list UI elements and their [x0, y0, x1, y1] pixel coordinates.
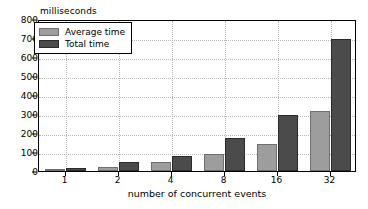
y-axis-tick-mark: [32, 58, 37, 59]
bar-average-time-8: [204, 154, 225, 171]
bar-average-time-4: [151, 162, 172, 171]
y-axis-tick-mark: [32, 134, 37, 135]
legend-swatch-average-time: [39, 28, 59, 36]
x-axis-title: number of concurrent events: [38, 188, 356, 199]
x-axis-tick-label: 1: [62, 175, 68, 185]
legend-label-average-time: Average time: [65, 27, 125, 37]
legend-item-total-time: Total time: [39, 38, 125, 50]
bar-average-time-1: [45, 169, 66, 171]
legend-item-average-time: Average time: [39, 26, 125, 38]
y-axis-tick-mark: [32, 115, 37, 116]
x-axis-tick-mark: [65, 172, 66, 176]
chart-legend: Average time Total time: [34, 22, 132, 54]
bar-average-time-16: [257, 144, 278, 171]
bar-total-time-32: [331, 39, 352, 171]
bar-total-time-8: [225, 138, 246, 171]
legend-label-total-time: Total time: [65, 39, 109, 49]
y-axis-tick-mark: [32, 20, 37, 21]
x-axis-tick-label: 32: [324, 175, 335, 185]
bar-total-time-1: [66, 168, 87, 171]
bar-average-time-2: [98, 167, 119, 171]
bar-total-time-4: [172, 156, 193, 171]
y-axis-unit-label: milliseconds: [40, 6, 97, 16]
x-axis-tick-label: 4: [168, 175, 174, 185]
y-axis-tick-mark: [32, 153, 37, 154]
x-axis-tick-label: 16: [271, 175, 282, 185]
y-axis-tick-mark: [32, 96, 37, 97]
x-axis-tick-mark: [277, 172, 278, 176]
y-axis-tick-mark: [32, 77, 37, 78]
legend-swatch-total-time: [39, 40, 59, 48]
x-axis-tick-mark: [118, 172, 119, 176]
bar-average-time-32: [310, 111, 331, 171]
y-axis-tick-mark: [32, 172, 37, 173]
x-axis-tick-label: 2: [115, 175, 121, 185]
x-axis-tick-mark: [171, 172, 172, 176]
x-axis-tick-label: 8: [221, 175, 227, 185]
x-axis-tick-mark: [330, 172, 331, 176]
bar-total-time-16: [278, 115, 299, 171]
bar-chart: milliseconds 0100200300400500600700800 1…: [0, 0, 368, 209]
x-axis-tick-mark: [224, 172, 225, 176]
bar-total-time-2: [119, 162, 140, 171]
